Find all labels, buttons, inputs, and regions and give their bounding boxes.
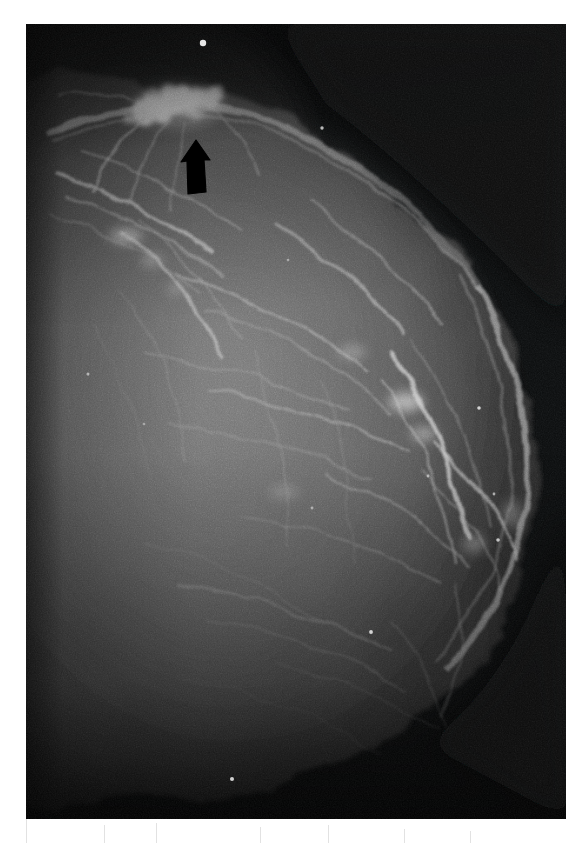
mammogram-film xyxy=(26,24,566,819)
page-root xyxy=(0,0,587,843)
ruler-tick xyxy=(470,831,471,843)
ruler-tick xyxy=(104,825,105,843)
film-grain-overlay-2 xyxy=(26,24,566,819)
radiograph-canvas xyxy=(26,24,566,819)
ruler-tick xyxy=(404,829,405,843)
ruler-tick xyxy=(328,825,329,843)
ruler-tick xyxy=(260,827,261,843)
ruler-tick xyxy=(26,819,27,843)
film-content xyxy=(26,24,566,819)
film-footer-strip xyxy=(0,819,587,843)
ruler-tick xyxy=(156,823,157,843)
